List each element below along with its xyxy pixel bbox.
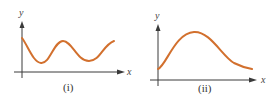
curve-ii xyxy=(158,32,252,69)
panel-i: y x (i) xyxy=(14,7,132,94)
caption-ii: (ii) xyxy=(198,82,212,95)
caption-i: (i) xyxy=(63,81,74,94)
figure: y x (i) y x (ii) xyxy=(0,0,277,97)
y-axis-label: y xyxy=(18,7,24,18)
x-axis-arrow-icon xyxy=(249,78,257,83)
y-axis-label: y xyxy=(154,10,160,21)
y-axis-arrow-icon xyxy=(156,24,161,31)
y-axis-arrow-icon xyxy=(20,21,25,28)
x-axis-label: x xyxy=(126,66,132,77)
curve-i xyxy=(22,38,114,63)
x-axis-label: x xyxy=(260,74,266,85)
x-axis-arrow-icon xyxy=(117,70,125,75)
panel-ii: y x (ii) xyxy=(150,10,266,95)
